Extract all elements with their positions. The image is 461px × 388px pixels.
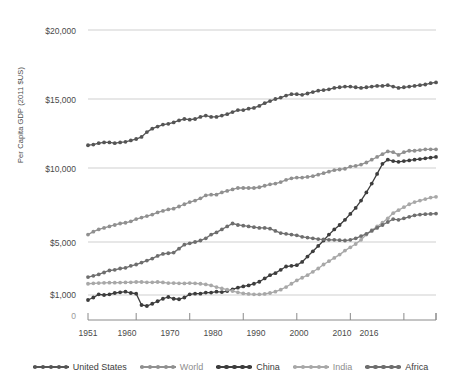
data-point [86, 298, 90, 302]
data-point [124, 140, 128, 144]
data-point [343, 218, 347, 222]
data-point [391, 211, 395, 215]
data-point [370, 182, 374, 186]
data-point [177, 297, 181, 301]
data-point [209, 291, 213, 295]
data-point [434, 81, 438, 85]
data-point [290, 264, 294, 268]
data-point [338, 168, 342, 172]
data-point [108, 269, 112, 273]
data-point [381, 152, 385, 156]
data-point [423, 147, 427, 151]
data-point [284, 178, 288, 182]
data-point [359, 238, 363, 242]
legend-item-india[interactable]: India [293, 362, 353, 372]
legend-item-africa[interactable]: Africa [365, 362, 428, 372]
data-point [284, 232, 288, 236]
data-point [397, 160, 401, 164]
data-point [150, 213, 154, 217]
data-point [397, 218, 401, 222]
data-point [156, 280, 160, 284]
data-point [140, 303, 144, 307]
data-point [140, 216, 144, 220]
data-point [263, 101, 267, 105]
data-point [124, 221, 128, 225]
data-point [279, 180, 283, 184]
data-point [220, 228, 224, 232]
data-point [316, 89, 320, 93]
legend-item-united-states[interactable]: United States [33, 362, 127, 372]
data-point [220, 290, 224, 294]
data-point [332, 238, 336, 242]
data-point [413, 200, 417, 204]
data-point [375, 226, 379, 230]
data-point [161, 209, 165, 213]
data-point [91, 143, 95, 147]
data-point [86, 233, 90, 237]
data-point [354, 164, 358, 168]
data-point [365, 85, 369, 89]
data-point [290, 176, 294, 180]
data-point [290, 233, 294, 237]
data-point [343, 85, 347, 89]
data-point [225, 288, 229, 292]
data-point [386, 150, 390, 154]
data-point [257, 292, 261, 296]
data-point [97, 281, 101, 285]
data-point [434, 147, 438, 151]
data-point [418, 213, 422, 217]
data-point [188, 241, 192, 245]
data-point [209, 193, 213, 197]
data-point [225, 225, 229, 229]
data-point [365, 161, 369, 165]
data-point [423, 212, 427, 216]
data-point [129, 139, 133, 143]
data-point [359, 86, 363, 90]
data-point [429, 196, 433, 200]
legend-marker-icon [140, 363, 176, 372]
data-point [166, 208, 170, 212]
data-point [134, 280, 138, 284]
data-point [407, 85, 411, 89]
legend-item-china[interactable]: China [216, 362, 280, 372]
data-point [91, 281, 95, 285]
plot-area [0, 0, 461, 388]
data-point [156, 299, 160, 303]
data-point [316, 237, 320, 241]
data-point [97, 292, 101, 296]
data-point [429, 212, 433, 216]
data-point [199, 239, 203, 243]
data-point [316, 267, 320, 271]
data-point [381, 84, 385, 88]
data-point [386, 216, 390, 220]
data-point [322, 171, 326, 175]
data-point [247, 107, 251, 111]
data-point [215, 290, 219, 294]
data-point [375, 84, 379, 88]
data-point [268, 227, 272, 231]
data-point [332, 86, 336, 90]
data-point [150, 127, 154, 131]
data-point [145, 259, 149, 263]
data-point [204, 236, 208, 240]
data-point [370, 229, 374, 233]
data-point [102, 271, 106, 275]
legend-item-world[interactable]: World [140, 362, 203, 372]
data-point [188, 281, 192, 285]
data-point [348, 165, 352, 169]
data-point [311, 90, 315, 94]
data-point [343, 249, 347, 253]
data-point [348, 238, 352, 242]
data-point [423, 197, 427, 201]
data-point [193, 292, 197, 296]
data-point [252, 225, 256, 229]
data-point [290, 282, 294, 286]
data-point [215, 193, 219, 197]
data-point [156, 254, 160, 258]
data-point [322, 237, 326, 241]
data-point [161, 297, 165, 301]
data-point [429, 81, 433, 85]
data-point [166, 295, 170, 299]
data-point [273, 271, 277, 275]
data-point [231, 222, 235, 226]
